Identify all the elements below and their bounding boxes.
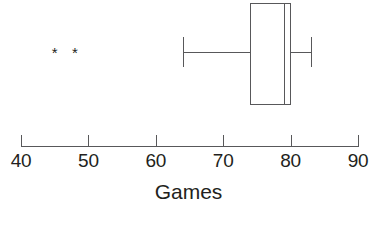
x-axis-tick-label: 40 [11, 150, 32, 172]
x-axis-tick [291, 135, 292, 147]
plot-area: * * [0, 0, 377, 128]
x-axis-tick [358, 135, 359, 147]
x-axis-tick [21, 135, 22, 147]
x-axis-line [21, 146, 358, 147]
boxplot-figure: * * 405060708090 Games [0, 0, 377, 235]
x-axis-tick [88, 135, 89, 147]
whisker-left-line [183, 52, 250, 53]
whisker-right-cap [311, 37, 312, 67]
x-axis: 405060708090 [0, 128, 377, 188]
x-axis-tick [156, 135, 157, 147]
x-axis-title: Games [0, 180, 377, 204]
whisker-right-line [291, 52, 311, 53]
x-axis-tick-label: 50 [78, 150, 99, 172]
x-axis-tick-label: 70 [213, 150, 234, 172]
x-axis-tick-label: 90 [348, 150, 369, 172]
outlier-marker: * [52, 45, 58, 60]
x-axis-tick-label: 80 [280, 150, 301, 172]
x-axis-tick [223, 135, 224, 147]
median-line [284, 3, 285, 105]
outlier-marker: * [72, 45, 78, 60]
whisker-left-cap [183, 37, 184, 67]
x-axis-tick-label: 60 [145, 150, 166, 172]
